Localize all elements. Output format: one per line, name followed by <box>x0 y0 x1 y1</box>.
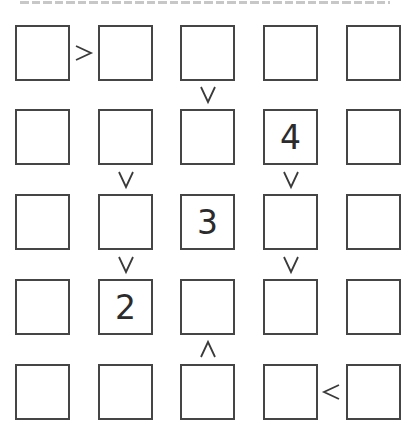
empty-cell[interactable] <box>346 109 401 165</box>
empty-cell[interactable] <box>346 364 401 420</box>
down-chevron-icon <box>116 170 136 190</box>
empty-cell[interactable] <box>15 194 70 250</box>
empty-cell[interactable] <box>180 279 235 335</box>
empty-cell[interactable] <box>263 279 318 335</box>
greater-than-icon <box>74 43 94 63</box>
empty-cell[interactable] <box>98 364 153 420</box>
down-chevron-icon <box>281 170 301 190</box>
empty-cell[interactable] <box>15 25 70 81</box>
empty-cell[interactable] <box>98 194 153 250</box>
empty-cell[interactable] <box>263 364 318 420</box>
empty-cell[interactable] <box>98 109 153 165</box>
empty-cell[interactable] <box>180 364 235 420</box>
empty-cell[interactable] <box>98 25 153 81</box>
empty-cell[interactable] <box>346 194 401 250</box>
empty-cell[interactable] <box>180 25 235 81</box>
empty-cell[interactable] <box>346 25 401 81</box>
empty-cell[interactable] <box>263 194 318 250</box>
down-chevron-icon <box>281 255 301 275</box>
empty-cell[interactable] <box>15 109 70 165</box>
empty-cell[interactable] <box>15 279 70 335</box>
down-chevron-icon <box>198 85 218 105</box>
empty-cell[interactable] <box>15 364 70 420</box>
up-chevron-icon <box>198 340 218 360</box>
empty-cell[interactable] <box>263 25 318 81</box>
cropped-instruction-text <box>20 0 390 4</box>
empty-cell[interactable] <box>180 109 235 165</box>
given-cell[interactable]: 2 <box>98 279 153 335</box>
given-cell[interactable]: 3 <box>180 194 235 250</box>
less-than-icon <box>322 382 342 402</box>
down-chevron-icon <box>116 255 136 275</box>
given-cell[interactable]: 4 <box>263 109 318 165</box>
empty-cell[interactable] <box>346 279 401 335</box>
